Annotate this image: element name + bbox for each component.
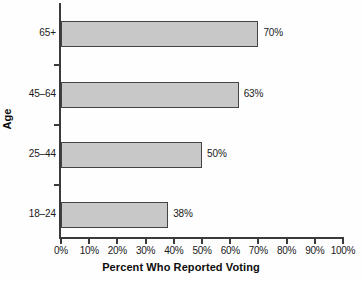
y-axis-tick <box>54 184 60 186</box>
y-axis-tick <box>54 124 60 126</box>
x-axis-tick <box>145 239 147 244</box>
bar-value-label: 70% <box>263 27 283 38</box>
bar <box>61 82 239 108</box>
x-axis-tick-label: 0% <box>54 245 68 256</box>
x-axis-tick <box>229 239 231 244</box>
y-axis-tick-label: 18–24 <box>0 208 56 219</box>
x-axis-tick-label: 20% <box>108 245 127 256</box>
bar <box>61 21 258 47</box>
y-axis-tick <box>54 64 60 66</box>
x-axis-tick <box>173 239 175 244</box>
x-axis-tick <box>201 239 203 244</box>
bar-chart: Age Percent Who Reported Voting 70%65+63… <box>0 0 362 281</box>
x-axis-tick <box>257 239 259 244</box>
bar-value-label: 63% <box>244 88 264 99</box>
x-axis-tick <box>286 239 288 244</box>
x-axis-tick-label: 100% <box>331 245 355 256</box>
x-axis-tick <box>342 239 344 244</box>
x-axis-tick-label: 70% <box>249 245 268 256</box>
y-axis-tick-label: 25–44 <box>0 148 56 159</box>
bar <box>61 142 202 168</box>
x-axis-tick-label: 90% <box>305 245 324 256</box>
x-axis-tick <box>88 239 90 244</box>
x-axis-tick-label: 40% <box>164 245 183 256</box>
bar-value-label: 50% <box>207 148 227 159</box>
x-axis-tick-label: 30% <box>136 245 155 256</box>
x-axis-tick <box>314 239 316 244</box>
x-axis-tick <box>116 239 118 244</box>
y-axis-tick-label: 65+ <box>0 27 56 38</box>
bar-value-label: 38% <box>173 208 193 219</box>
x-axis-tick-label: 50% <box>192 245 211 256</box>
x-axis-tick-label: 10% <box>80 245 99 256</box>
bar <box>61 202 168 228</box>
y-axis-title: Age <box>1 99 13 139</box>
x-axis-tick-label: 60% <box>221 245 240 256</box>
x-axis-tick-label: 80% <box>277 245 296 256</box>
y-axis-tick-label: 45–64 <box>0 88 56 99</box>
x-axis-tick <box>60 239 62 244</box>
x-axis-title: Percent Who Reported Voting <box>0 261 362 273</box>
